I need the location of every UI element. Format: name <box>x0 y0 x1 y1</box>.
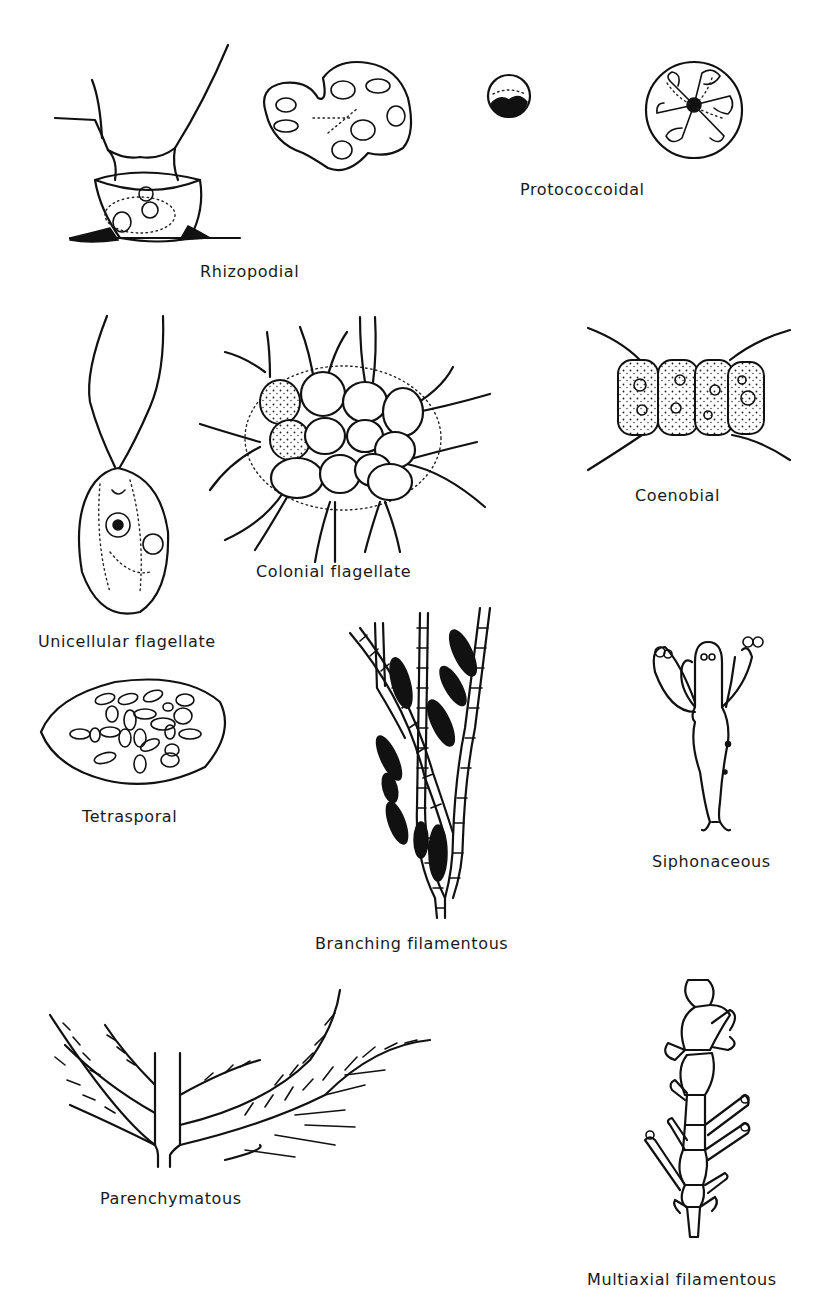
parenchymatous-drawing <box>45 985 435 1185</box>
tetrasporal-drawing <box>35 672 235 792</box>
label-siphonaceous: Siphonaceous <box>652 852 771 871</box>
label-unicellular-flagellate: Unicellular flagellate <box>38 632 216 651</box>
unicellular-flagellate-drawing <box>70 312 180 620</box>
label-coenobial: Coenobial <box>635 486 720 505</box>
label-tetrasporal: Tetrasporal <box>82 807 177 826</box>
label-branching-filamentous: Branching filamentous <box>315 934 508 953</box>
label-protococcoidal: Protococcoidal <box>520 180 645 199</box>
protococcoidal-large-cell-drawing <box>642 58 746 162</box>
colonial-flagellate-drawing <box>195 312 515 562</box>
coenobial-drawing <box>580 320 800 470</box>
protococcoidal-small-cell-drawing <box>485 72 535 122</box>
multiaxial-filamentous-drawing <box>630 975 770 1250</box>
label-colonial-flagellate: Colonial flagellate <box>256 562 411 581</box>
label-multiaxial-filamentous: Multiaxial filamentous <box>587 1270 777 1289</box>
rhizopodial-drawing <box>40 40 250 250</box>
amoeboid-cell-drawing <box>258 58 418 178</box>
siphonaceous-drawing <box>640 632 770 832</box>
label-rhizopodial: Rhizopodial <box>200 262 299 281</box>
label-parenchymatous: Parenchymatous <box>100 1189 242 1208</box>
branching-filamentous-drawing <box>345 608 495 928</box>
